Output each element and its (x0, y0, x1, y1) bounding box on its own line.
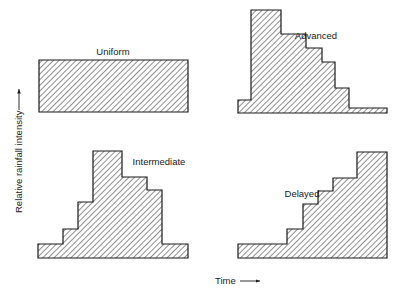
y-axis-label-group: Relative rainfall intensity (13, 89, 24, 213)
x-axis-label: Time (215, 275, 236, 286)
delayed-shape (238, 152, 387, 258)
panel-intermediate: Intermediate (38, 151, 188, 258)
panel-uniform: Uniform (39, 46, 188, 112)
intermediate-label: Intermediate (133, 156, 186, 167)
panel-delayed: Delayed (238, 152, 387, 258)
rainfall-distribution-diagram: Uniform Advanced Intermediate Delayed Re… (0, 0, 398, 288)
uniform-shape (39, 60, 188, 112)
panel-advanced: Advanced (238, 10, 387, 113)
intermediate-shape (38, 151, 188, 258)
delayed-label: Delayed (285, 188, 320, 199)
advanced-shape (238, 10, 387, 113)
advanced-label: Advanced (295, 30, 337, 41)
x-axis-label-group: Time (215, 275, 260, 286)
y-axis-label: Relative rainfall intensity (13, 110, 24, 213)
uniform-label: Uniform (96, 46, 129, 57)
